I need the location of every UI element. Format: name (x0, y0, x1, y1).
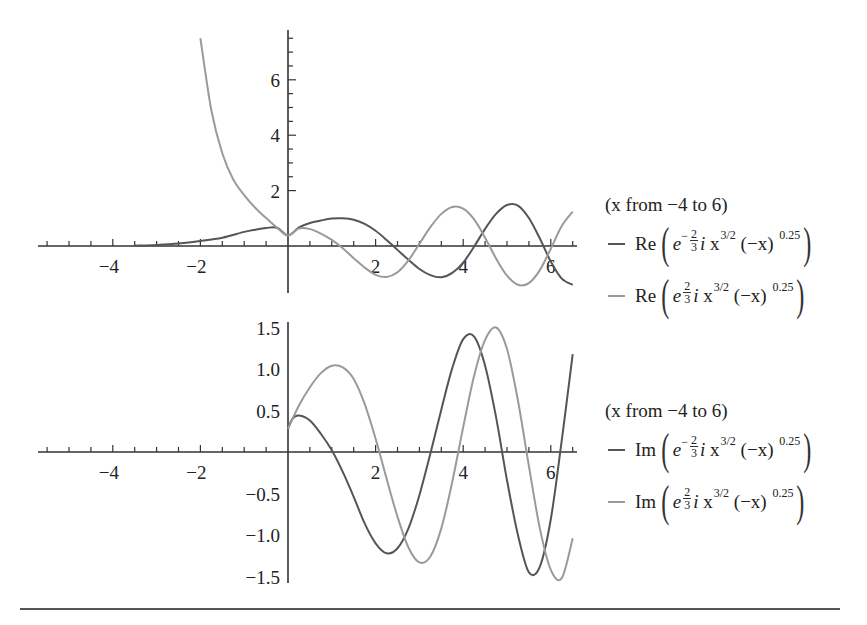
open-paren-icon: ( (661, 428, 669, 472)
legend-i: i (700, 233, 705, 255)
fraction-numerator: 2 (690, 434, 698, 447)
legend-tail: (−x) (741, 233, 774, 255)
y-tick-label: −1.5 (246, 567, 280, 588)
legend-x: x (710, 439, 720, 461)
legend-entry: Im ( e − 2 3 i x3/2 (−x) 0.25 ) (605, 424, 815, 476)
legend-expression: e 2 3 i x3/2 (−x) 0.25 (673, 284, 794, 309)
fraction-denominator: 3 (684, 293, 690, 305)
legend-power: 3/2 (714, 486, 729, 501)
legend-i: i (693, 285, 698, 307)
legend-power: 3/2 (714, 280, 729, 295)
close-paren-icon: ) (804, 222, 812, 266)
y-tick-label: 1.5 (256, 318, 280, 339)
legend-range-label: (x from −4 to 6) (605, 398, 815, 424)
legend-power: 3/2 (721, 434, 736, 449)
legend-swatch (608, 295, 625, 297)
x-tick-label: −2 (186, 256, 206, 277)
fraction-numerator: 2 (683, 280, 691, 293)
x-tick-label: 4 (458, 462, 468, 483)
legend-power: 3/2 (721, 228, 736, 243)
x-tick-label: −4 (99, 256, 120, 277)
legend-x: x (703, 491, 713, 513)
legend-e: e (673, 491, 681, 513)
fraction-denominator: 3 (691, 447, 697, 459)
legend-entries: Re ( e − 2 3 i x3/2 (−x) 0.25 ) Re ( e (605, 218, 815, 322)
legend-expression: e − 2 3 i x3/2 (−x) 0.25 (673, 232, 800, 257)
legend-tail: (−x) (734, 491, 767, 513)
y-tick-label: 6 (271, 70, 281, 91)
legend-exponent: 0.25 (772, 486, 793, 501)
plot-top-real-parts: −4−2246246 (38, 30, 577, 293)
legend-swatch (608, 501, 625, 503)
legend-fraction: 2 3 (683, 486, 691, 511)
legend-fraction: 2 3 (690, 228, 698, 253)
legend-entry: Re ( e − 2 3 i x3/2 (−x) 0.25 ) (605, 218, 815, 270)
legend-bottom: (x from −4 to 6) Im ( e − 2 3 i x3/2 (−x… (605, 398, 815, 528)
x-tick-label: −2 (186, 462, 206, 483)
legend-entry: Re ( e 2 3 i x3/2 (−x) 0.25 ) (605, 270, 815, 322)
legend-i: i (700, 439, 705, 461)
legend-e: e (673, 233, 681, 255)
legend-i: i (693, 491, 698, 513)
series-curve (200, 38, 572, 285)
fraction-numerator: 2 (690, 228, 698, 241)
legend-x: x (703, 285, 713, 307)
legend-top: (x from −4 to 6) Re ( e − 2 3 i x3/2 (−x… (605, 192, 815, 322)
open-paren-icon: ( (661, 480, 669, 524)
legend-e: e (673, 285, 681, 307)
fraction-denominator: 3 (684, 499, 690, 511)
fraction-denominator: 3 (691, 241, 697, 253)
legend-tail: (−x) (734, 285, 767, 307)
x-tick-label: −4 (99, 462, 120, 483)
y-tick-label: −1.0 (246, 525, 280, 546)
open-paren-icon: ( (661, 274, 669, 318)
fraction-numerator: 2 (683, 486, 691, 499)
x-tick-label: 2 (371, 462, 381, 483)
legend-sign: − (681, 435, 688, 450)
legend-expression: e − 2 3 i x3/2 (−x) 0.25 (673, 438, 800, 463)
legend-fraction: 2 3 (690, 434, 698, 459)
x-tick-label: 6 (546, 462, 556, 483)
page-divider-rule (20, 608, 840, 610)
legend-function: Im (635, 439, 656, 461)
legend-e: e (673, 439, 681, 461)
legend-tail: (−x) (741, 439, 774, 461)
legend-function: Im (635, 491, 656, 513)
close-paren-icon: ) (797, 274, 805, 318)
legend-exponent: 0.25 (779, 228, 800, 243)
legend-swatch (608, 243, 625, 245)
legend-sign: − (681, 229, 688, 244)
legend-exponent: 0.25 (772, 280, 793, 295)
close-paren-icon: ) (804, 428, 812, 472)
legend-function: Re (635, 233, 656, 255)
legend-range-label: (x from −4 to 6) (605, 192, 815, 218)
legend-swatch (608, 449, 625, 451)
open-paren-icon: ( (661, 222, 669, 266)
legend-function: Re (635, 285, 656, 307)
legend-entries: Im ( e − 2 3 i x3/2 (−x) 0.25 ) Im ( e (605, 424, 815, 528)
legend-expression: e 2 3 i x3/2 (−x) 0.25 (673, 490, 794, 515)
y-tick-label: −0.5 (246, 484, 280, 505)
legend-exponent: 0.25 (779, 434, 800, 449)
legend-fraction: 2 3 (683, 280, 691, 305)
y-tick-label: 2 (271, 181, 281, 202)
series-curve (288, 334, 573, 575)
plot-bottom-imag-parts: −4−2246−1.5−1.0−0.50.51.01.5 (38, 318, 577, 588)
legend-entry: Im ( e 2 3 i x3/2 (−x) 0.25 ) (605, 476, 815, 528)
close-paren-icon: ) (797, 480, 805, 524)
y-tick-label: 4 (271, 125, 281, 146)
y-tick-label: 1.0 (256, 359, 280, 380)
y-tick-label: 0.5 (256, 401, 280, 422)
legend-x: x (710, 233, 720, 255)
